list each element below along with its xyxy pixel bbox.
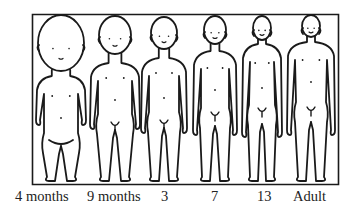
- head: [253, 16, 271, 40]
- groin-mark: [160, 120, 168, 129]
- figure-adult: [287, 15, 335, 181]
- right-body-outline: [115, 53, 140, 181]
- left-body-outline: [90, 53, 115, 181]
- navel: [214, 89, 216, 91]
- right-eye: [68, 48, 70, 50]
- stage-label-4-months: 4 months: [15, 187, 69, 205]
- groin-mark: [307, 107, 315, 116]
- stage-label-3: 3: [161, 187, 168, 205]
- right-eye: [264, 30, 266, 32]
- right-eye: [218, 32, 220, 34]
- mouth: [309, 32, 313, 33]
- left-eye: [52, 48, 54, 50]
- navel: [114, 99, 116, 101]
- left-eye: [307, 27, 309, 29]
- mouth: [59, 58, 63, 59]
- figure-9-months: [90, 16, 140, 181]
- left-nipple: [302, 59, 304, 61]
- navel: [163, 97, 165, 99]
- right-eye: [313, 27, 315, 29]
- left-eye: [159, 35, 161, 37]
- stage-label-13: 13: [257, 187, 272, 205]
- body-proportions-figure: 4 months 9 months 3 7 13 Adult: [0, 0, 358, 216]
- groin-mark: [258, 108, 266, 117]
- right-body-outline: [164, 48, 187, 181]
- left-nipple: [105, 77, 107, 79]
- right-body-outline: [61, 70, 86, 181]
- mouth: [213, 38, 217, 39]
- right-nipple: [222, 67, 224, 69]
- figure-7: [193, 16, 237, 181]
- belly-fold: [49, 140, 73, 144]
- left-nipple: [207, 67, 209, 69]
- navel: [60, 117, 62, 119]
- right-nipple: [123, 77, 125, 79]
- head: [151, 17, 177, 49]
- left-eye: [258, 30, 260, 32]
- left-eye: [210, 32, 212, 34]
- stage-label-adult: Adult: [293, 187, 326, 205]
- groin-mark: [111, 122, 119, 131]
- left-nipple: [254, 62, 256, 64]
- mouth: [113, 45, 117, 46]
- head: [99, 16, 131, 54]
- figure-3: [141, 17, 187, 181]
- figure-4-months: [36, 15, 86, 181]
- stage-label-9-months: 9 months: [87, 187, 141, 205]
- left-body-outline: [141, 48, 164, 181]
- mouth: [162, 42, 166, 43]
- right-nipple: [171, 72, 173, 74]
- head: [204, 16, 226, 44]
- right-nipple: [69, 95, 71, 97]
- left-body-outline: [36, 70, 61, 181]
- head: [302, 15, 320, 37]
- stage-label-7: 7: [211, 187, 218, 205]
- left-nipple: [51, 95, 53, 97]
- figure-canvas: [0, 0, 358, 216]
- navel: [310, 81, 312, 83]
- head: [38, 15, 84, 71]
- left-eye: [109, 38, 111, 40]
- groin-mark: [211, 112, 219, 121]
- mouth: [260, 35, 264, 36]
- right-nipple: [319, 59, 321, 61]
- right-eye: [120, 38, 122, 40]
- left-nipple: [155, 72, 157, 74]
- figure-13: [242, 16, 282, 181]
- navel: [261, 87, 263, 89]
- right-nipple: [268, 62, 270, 64]
- right-eye: [168, 35, 170, 37]
